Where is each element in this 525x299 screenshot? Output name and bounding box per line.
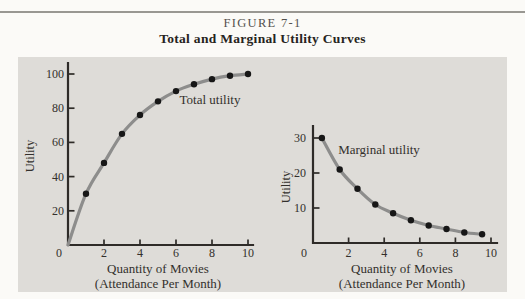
y-axis-title: Utility	[279, 170, 293, 203]
x-axis-subtitle: (Attendance Per Month)	[95, 276, 221, 291]
charts-svg: 246810020406080100Total utilityUtilityQu…	[0, 0, 525, 299]
data-point	[245, 71, 251, 77]
data-point	[390, 210, 396, 216]
data-point	[119, 131, 125, 137]
y-tick-label: 100	[46, 67, 64, 81]
y-tick-label: 60	[52, 135, 64, 149]
data-point	[101, 160, 107, 166]
data-point	[408, 217, 414, 223]
data-point	[191, 81, 197, 87]
data-point	[173, 88, 179, 94]
x-axis-title: Quantity of Movies	[351, 261, 453, 276]
x-tick-label: 10	[485, 246, 497, 260]
data-point	[354, 186, 360, 192]
y-tick-label: 20	[294, 166, 306, 180]
origin-label: 0	[301, 246, 307, 260]
data-point	[83, 191, 89, 197]
data-point	[227, 73, 233, 79]
y-tick-label: 30	[294, 131, 306, 145]
y-tick-label: 10	[294, 201, 306, 215]
x-tick-label: 8	[209, 246, 215, 260]
total-utility-axes	[68, 63, 253, 245]
y-axis-title: Utility	[23, 139, 37, 172]
data-point	[461, 229, 467, 235]
x-tick-label: 8	[452, 246, 458, 260]
data-point	[372, 201, 378, 207]
data-point	[209, 76, 215, 82]
x-tick-label: 2	[101, 246, 107, 260]
x-tick-label: 6	[417, 246, 423, 260]
data-point	[443, 226, 449, 232]
x-tick-label: 10	[242, 246, 254, 260]
data-point	[337, 166, 343, 172]
y-tick-label: 20	[52, 204, 64, 218]
origin-label: 0	[56, 246, 62, 260]
x-axis-title: Quantity of Movies	[107, 261, 209, 276]
x-tick-label: 4	[137, 246, 143, 260]
total-utility-annotation-label: Total utility	[180, 92, 241, 107]
x-tick-label: 2	[346, 246, 352, 260]
data-point	[479, 231, 485, 237]
x-tick-label: 6	[173, 246, 179, 260]
data-point	[155, 98, 161, 104]
x-tick-label: 4	[381, 246, 387, 260]
y-tick-label: 40	[52, 170, 64, 184]
data-point	[319, 135, 325, 141]
x-axis-subtitle: (Attendance Per Month)	[339, 276, 465, 291]
y-tick-label: 80	[52, 101, 64, 115]
marginal-utility-annotation-label: Marginal utility	[338, 142, 420, 157]
data-point	[137, 112, 143, 118]
data-point	[426, 222, 432, 228]
